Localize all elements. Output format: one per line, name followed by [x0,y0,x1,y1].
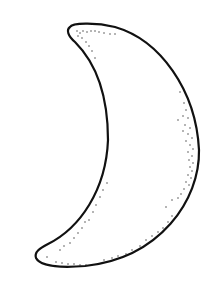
crescent-moon-icon [0,0,209,291]
crescent-moon-illustration [0,0,209,291]
moon-outline [36,24,199,267]
